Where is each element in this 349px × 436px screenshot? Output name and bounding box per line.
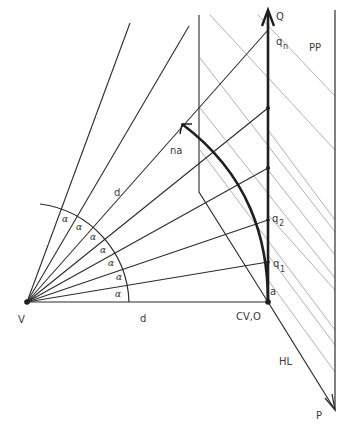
perspective-diagram: α α α α α α α Q q n PP na d q 2 q 1 a V … xyxy=(0,0,349,436)
label-na: na xyxy=(170,145,182,156)
label-q: Q xyxy=(276,11,284,22)
left-construction-line xyxy=(199,15,268,302)
label-q2-sub: 2 xyxy=(279,219,284,228)
alpha-label-3: α xyxy=(108,258,114,268)
rotation-arc xyxy=(182,124,268,302)
label-cv-o: CV,O xyxy=(236,311,261,322)
label-hl: HL xyxy=(279,356,293,367)
alpha-label-7: α xyxy=(62,214,68,224)
alpha-label-1: α xyxy=(115,289,121,299)
label-p: P xyxy=(316,410,322,421)
label-qn: q xyxy=(276,36,282,47)
label-q1: q xyxy=(273,258,279,269)
label-d-ray: d xyxy=(114,187,120,198)
alpha-label-4: α xyxy=(100,245,106,255)
ray-fan xyxy=(27,23,268,302)
alpha-label-5: α xyxy=(90,232,96,242)
label-d-base: d xyxy=(140,313,146,324)
label-pp: PP xyxy=(309,42,321,53)
alpha-label-6: α xyxy=(76,222,82,232)
label-q2: q xyxy=(272,213,278,224)
label-a: a xyxy=(270,286,276,297)
label-q1-sub: 1 xyxy=(280,265,285,274)
label-qn-sub: n xyxy=(283,42,288,51)
alpha-label-2: α xyxy=(116,272,122,282)
label-v: V xyxy=(18,314,25,325)
